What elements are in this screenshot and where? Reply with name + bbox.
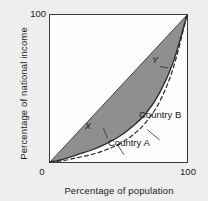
x-axis-title: Percentage of population (49, 185, 189, 196)
x-axis-tick-100: 100 (176, 166, 200, 177)
y-axis-title: Percentage of national income (18, 19, 29, 169)
x-axis-tick-0: 0 (36, 166, 48, 177)
series-label-country-b: Country B (139, 109, 181, 120)
series-label-country-a: Country A (108, 137, 150, 148)
area-marker-y: Y (152, 55, 158, 65)
y-axis-tick-100: 100 (24, 8, 46, 19)
area-marker-x: X (85, 121, 91, 131)
lorenz-curve-figure: Percentage of national income Percentage… (0, 0, 208, 201)
